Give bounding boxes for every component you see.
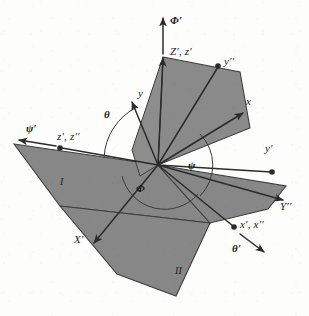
label-y: y (138, 88, 143, 99)
vertical-plane (158, 57, 250, 165)
label-plane-one: I (60, 177, 64, 187)
label-phi-prime: Φ′ (170, 15, 182, 26)
label-y-double-prime: y′′ (224, 56, 234, 67)
label-plane-two: II (175, 266, 182, 276)
label-y-prime: y′ (265, 143, 273, 154)
label-X-prime: X′ (74, 234, 84, 245)
euler-angles-figure (0, 0, 309, 316)
planes-group (14, 57, 286, 296)
theta-prime-arrow (240, 234, 264, 252)
label-theta-prime: θ′ (232, 243, 241, 254)
label-x: x (246, 96, 251, 107)
z-prime-z-double-prime-endpoint-dot (57, 145, 63, 151)
euler-angles-diagram-page: Φ′ Z′, z′ y′′ x y θ ψ′ z′, z′′ y′ ψ Φ Y′… (0, 0, 309, 316)
label-Phi: Φ (136, 183, 145, 194)
label-Y-double-prime: Y′′ (280, 201, 292, 212)
label-psi: ψ (188, 160, 196, 171)
label-x-prime-x-double-prime: x′, x′′ (240, 219, 264, 230)
label-theta: θ (104, 109, 110, 120)
label-Z-z-prime: Z′, z′ (170, 46, 192, 57)
label-psi-prime: ψ′ (26, 123, 37, 134)
y-prime-endpoint-dot (269, 169, 275, 175)
y-double-prime-endpoint-dot (215, 63, 221, 69)
x-prime-x-double-prime-endpoint-dot (231, 224, 237, 230)
label-z-prime-z-double-prime: z′, z′′ (57, 131, 80, 142)
